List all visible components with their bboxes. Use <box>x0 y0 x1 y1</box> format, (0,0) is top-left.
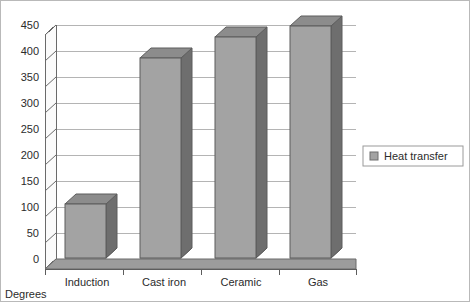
chart-legend[interactable]: Heat transfer <box>363 146 463 166</box>
bar-gas[interactable] <box>290 16 342 258</box>
y-tick-label: 0 <box>33 253 39 265</box>
legend-swatch-heat-transfer <box>370 152 378 160</box>
y-axis-title: Degrees <box>5 288 47 300</box>
x-tick-label-gas: Gas <box>308 276 329 288</box>
bar-cast-iron[interactable] <box>140 48 192 258</box>
bar-induction[interactable] <box>65 194 117 258</box>
bar-chart: 450 400 350 300 250 200 150 100 50 0 <box>1 1 471 303</box>
x-tick-label-cast-iron: Cast iron <box>142 276 186 288</box>
x-axis <box>45 269 356 275</box>
y-tick-label: 450 <box>21 19 39 31</box>
y-tick-label: 50 <box>27 227 39 239</box>
chart-floor <box>45 259 356 269</box>
y-tick-labels: 450 400 350 300 250 200 150 100 50 0 <box>21 19 39 265</box>
y-tick-label: 150 <box>21 175 39 187</box>
y-tick-label: 400 <box>21 45 39 57</box>
legend-label-heat-transfer: Heat transfer <box>384 150 448 162</box>
y-tick-label: 250 <box>21 123 39 135</box>
y-tick-label: 200 <box>21 149 39 161</box>
x-tick-label-ceramic: Ceramic <box>221 276 262 288</box>
y-tick-label: 100 <box>21 201 39 213</box>
x-tick-label-induction: Induction <box>65 276 110 288</box>
x-tick-labels: Induction Cast iron Ceramic Gas <box>65 276 329 288</box>
y-tick-label: 350 <box>21 71 39 83</box>
bar-ceramic[interactable] <box>215 27 267 258</box>
chart-frame: 450 400 350 300 250 200 150 100 50 0 <box>0 0 470 302</box>
y-tick-label: 300 <box>21 97 39 109</box>
